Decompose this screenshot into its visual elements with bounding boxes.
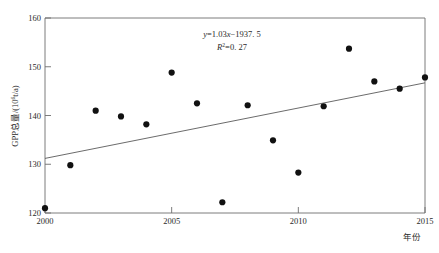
scatter-point bbox=[371, 78, 377, 84]
regression-equation-annotation: y=1.03x−1937. 5 bbox=[202, 29, 261, 39]
scatter-point bbox=[194, 100, 200, 106]
scatter-point bbox=[346, 46, 352, 52]
scatter-point bbox=[245, 102, 251, 108]
scatter-point bbox=[93, 108, 99, 114]
scatter-point bbox=[270, 137, 276, 143]
x-axis-ticks bbox=[45, 207, 425, 213]
x-tick-labels: 2000 2005 2010 2015 bbox=[37, 216, 434, 226]
scatter-point bbox=[295, 169, 301, 175]
scatter-plot-svg: 160 150 140 130 120 2000 2005 2010 2015 … bbox=[0, 0, 439, 253]
scatter-point bbox=[67, 162, 73, 168]
scatter-point bbox=[42, 205, 48, 211]
x-tick-label-2000: 2000 bbox=[37, 216, 54, 226]
chart-figure: 160 150 140 130 120 2000 2005 2010 2015 … bbox=[0, 0, 439, 253]
equation-intercept-part: −1937. 5 bbox=[230, 29, 260, 39]
scatter-point bbox=[118, 113, 124, 119]
scatter-point bbox=[219, 199, 225, 205]
r-squared-value: =0. 27 bbox=[225, 42, 247, 52]
scatter-point bbox=[422, 74, 428, 80]
x-tick-label-2015: 2015 bbox=[417, 216, 434, 226]
y-tick-label-130: 130 bbox=[28, 159, 41, 169]
y-axis-title-main: GPP总量/(10 bbox=[10, 99, 20, 146]
equation-slope-digits: 03 bbox=[218, 29, 227, 39]
svg-text:GPP总量/(106t/a): GPP总量/(106t/a) bbox=[10, 85, 20, 147]
y-tick-label-150: 150 bbox=[28, 62, 41, 72]
scatter-point bbox=[143, 121, 149, 127]
r-squared-annotation: R2=0. 27 bbox=[216, 42, 247, 52]
y-axis-title-tail: t/a) bbox=[10, 85, 20, 96]
y-tick-labels: 160 150 140 130 120 bbox=[28, 13, 41, 218]
scatter-points-group bbox=[42, 46, 428, 212]
trend-line bbox=[45, 83, 425, 159]
y-axis-title: GPP总量/(106t/a) bbox=[10, 85, 20, 147]
equation-eq-part: =1. bbox=[207, 29, 218, 39]
x-tick-label-2010: 2010 bbox=[290, 216, 307, 226]
scatter-point bbox=[169, 70, 175, 76]
scatter-point bbox=[321, 103, 327, 109]
y-tick-label-140: 140 bbox=[28, 111, 41, 121]
scatter-point bbox=[397, 86, 403, 92]
x-tick-label-2005: 2005 bbox=[163, 216, 180, 226]
y-axis-ticks bbox=[45, 18, 51, 213]
y-tick-label-160: 160 bbox=[28, 13, 41, 23]
x-axis-title: 年份 bbox=[403, 232, 421, 242]
